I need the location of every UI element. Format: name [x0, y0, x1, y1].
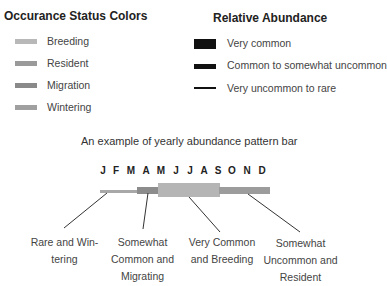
callout-line: Common and [100, 251, 185, 268]
callout-common-migrating: Somewhat Common and Migrating [100, 234, 185, 285]
callout-line: Rare and Win- [22, 234, 107, 251]
callout-line: Migrating [100, 268, 185, 285]
callout-rare-wintering: Rare and Win- tering [22, 234, 107, 268]
callout-line: Somewhat [258, 235, 343, 252]
callout-line: Somewhat [100, 234, 185, 251]
callout-line: Uncommon and [258, 252, 343, 269]
callout-very-common-breeding: Very Common and Breeding [178, 234, 266, 268]
callout-line: Very Common [178, 234, 266, 251]
callout-line: Resident [258, 269, 343, 286]
callout-line: tering [22, 251, 107, 268]
callout-uncommon-resident: Somewhat Uncommon and Resident [258, 235, 343, 286]
callout-line: and Breeding [178, 251, 266, 268]
